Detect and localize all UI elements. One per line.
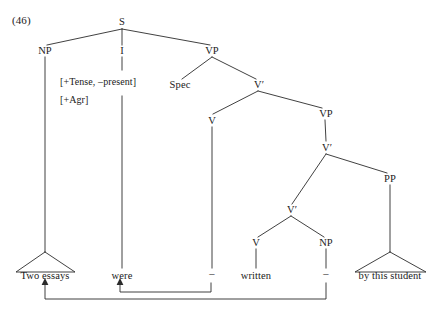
edge-vp-lower-vbar xyxy=(325,120,326,141)
feature-agr: [+Agr] xyxy=(60,95,88,105)
node-np-subject: NP xyxy=(38,46,52,57)
node-spec: Spec xyxy=(170,80,191,91)
node-vp-lower: VP xyxy=(319,109,333,120)
edge-vbar-v xyxy=(213,91,258,114)
syntax-tree-figure: (46) S NP I VP Spec V′ V VP V′ V′ V NP P… xyxy=(0,0,441,309)
edge-vp-spec xyxy=(182,57,212,79)
example-number: (46) xyxy=(12,15,31,26)
movement-arrow-head-raising xyxy=(120,283,211,292)
edge-vbar-inner-v xyxy=(258,216,291,237)
node-np-object: NP xyxy=(319,238,333,249)
edge-vbar-vp xyxy=(258,91,322,108)
node-vbar-top: V′ xyxy=(254,80,264,91)
node-v-main: V xyxy=(252,238,260,249)
leaf-trace-object: – xyxy=(323,269,328,280)
tree-lines xyxy=(0,0,441,309)
node-i: I xyxy=(120,46,124,57)
edge-vp-vbar xyxy=(212,57,256,79)
leaf-aux: were xyxy=(112,271,133,282)
edge-vbar-inner-np xyxy=(291,216,324,237)
node-vbar-mid: V′ xyxy=(322,143,332,154)
leaf-trace-aux: – xyxy=(209,269,214,280)
leaf-pp-phrase: by this student xyxy=(359,271,422,282)
edge-s-vp xyxy=(122,29,210,45)
edge-vbar-mid-pp xyxy=(326,154,387,173)
leaf-participle: written xyxy=(241,271,271,282)
leaf-subject: Two essays xyxy=(21,271,70,282)
edge-s-np xyxy=(47,29,122,45)
node-vbar-inner: V′ xyxy=(287,205,297,216)
edge-vbar-mid-vbar-inner xyxy=(292,154,326,204)
node-pp: PP xyxy=(384,174,396,185)
node-v-aux: V xyxy=(208,116,216,127)
node-s: S xyxy=(119,17,125,28)
node-vp-top: VP xyxy=(205,46,219,57)
feature-tense: [+Tense, –present] xyxy=(60,77,136,87)
movement-arrow-np-raising xyxy=(45,283,326,299)
